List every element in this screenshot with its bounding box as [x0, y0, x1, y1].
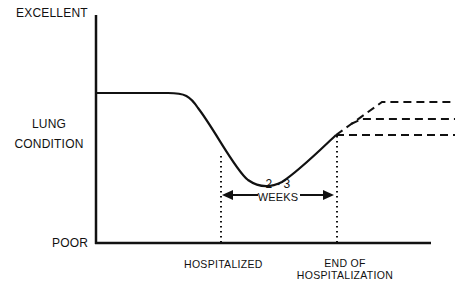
duration-label-line2: WEEKS: [249, 190, 307, 204]
x-label-hospitalization: HOSPITALIZATION: [285, 268, 405, 282]
x-label-hospitalized: HOSPITALIZED: [184, 258, 263, 270]
projection-mid: [351, 119, 455, 124]
y-label-poor: POOR: [52, 236, 88, 250]
lung-condition-curve: [96, 93, 336, 186]
duration-label-line1: 2 - 3: [249, 177, 307, 191]
y-label-condition: CONDITION: [8, 137, 90, 151]
y-label-excellent: EXCELLENT: [16, 6, 88, 20]
y-label-lung: LUNG: [18, 117, 80, 131]
arrowhead-right-icon: [323, 190, 334, 200]
arrowhead-left-icon: [222, 190, 233, 200]
